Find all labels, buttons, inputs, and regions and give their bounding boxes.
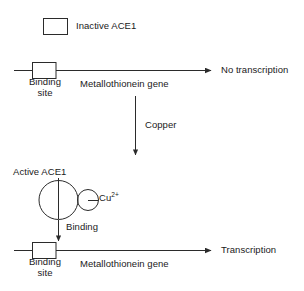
binding-site-label-bottom-line1: Binding [29, 256, 61, 267]
gene-label-bottom: Metallothionein gene [80, 258, 169, 269]
gene-label-top: Metallothionein gene [80, 78, 169, 89]
copper-label: Copper [145, 119, 176, 130]
binding-site-label-top-line1: Binding [29, 76, 61, 87]
copper-ion-label: Cu2+ [99, 192, 119, 203]
binding-site-label-top: Binding site [20, 76, 70, 98]
active-ace1-label: Active ACE1 [13, 166, 66, 177]
copper-ion-charge: 2+ [111, 191, 119, 198]
binding-site-label-top-line2: site [38, 87, 53, 98]
copper-ion-symbol: Cu [99, 192, 111, 203]
outcome-transcription: Transcription [221, 244, 276, 255]
outcome-no-transcription: No transcription [221, 64, 288, 75]
binding-action-label: Binding [66, 221, 98, 232]
legend-label: Inactive ACE1 [76, 20, 136, 31]
ace1-regulation-diagram: Inactive ACE1 No transcription Binding s… [0, 0, 304, 291]
binding-site-label-bottom-line2: site [38, 267, 53, 278]
inactive-ace1-box [44, 19, 68, 35]
binding-site-label-bottom: Binding site [20, 256, 70, 278]
